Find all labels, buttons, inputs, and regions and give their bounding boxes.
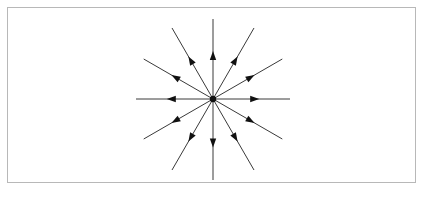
ray-arrowhead-s	[210, 139, 216, 148]
center-point-marker	[210, 96, 216, 102]
figure-root	[0, 0, 426, 197]
ray-arrowhead-nnw	[188, 56, 195, 65]
radial-vector-field-diagram	[0, 0, 426, 197]
ray-arrowhead-ene	[245, 75, 254, 82]
ray-arrowhead-wsw	[171, 116, 180, 123]
ray-arrowhead-ssw	[188, 132, 195, 141]
ray-arrowhead-w	[167, 96, 176, 102]
ray-arrowhead-e	[250, 96, 259, 102]
ray-arrowhead-nne	[230, 56, 237, 65]
ray-arrowhead-wnw	[171, 75, 180, 82]
ray-arrowhead-ese	[245, 116, 254, 123]
ray-arrowhead-sse	[230, 132, 237, 141]
ray-arrowhead-n	[210, 51, 216, 60]
